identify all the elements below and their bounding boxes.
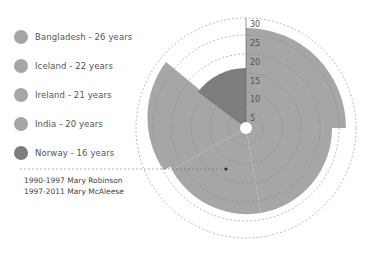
- annotation-text: 1990-1997 Mary Robinson 1997-2011 Mary M…: [24, 175, 124, 197]
- tick-10: 10: [250, 95, 260, 104]
- annotation-dot: [224, 167, 227, 170]
- annotation-line-1: 1990-1997 Mary Robinson: [24, 175, 124, 186]
- tick-25: 25: [250, 39, 260, 48]
- wedge-bangladesh: [246, 28, 346, 128]
- center-hole: [240, 122, 252, 134]
- annotation-line-2: 1997-2011 Mary McAleese: [24, 186, 124, 197]
- tick-30: 30: [250, 20, 260, 29]
- tick-5: 5: [250, 114, 255, 123]
- polar-chart: 5 10 15 20 25 30: [0, 0, 382, 253]
- tick-15: 15: [250, 77, 260, 86]
- tick-20: 20: [250, 58, 260, 67]
